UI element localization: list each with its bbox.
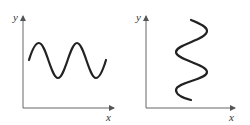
sine-curve xyxy=(29,43,106,78)
x-axis-label: x xyxy=(229,112,234,123)
figure-horizontal-wave: y x xyxy=(0,0,125,125)
y-axis-label: y xyxy=(13,12,18,23)
sine-curve xyxy=(176,20,207,100)
y-axis-label: y xyxy=(136,12,141,23)
x-axis-label: x xyxy=(106,112,111,123)
figure-vertical-wave: y x xyxy=(125,0,250,125)
plot-horizontal-wave xyxy=(0,0,125,125)
plot-vertical-wave xyxy=(125,0,250,125)
